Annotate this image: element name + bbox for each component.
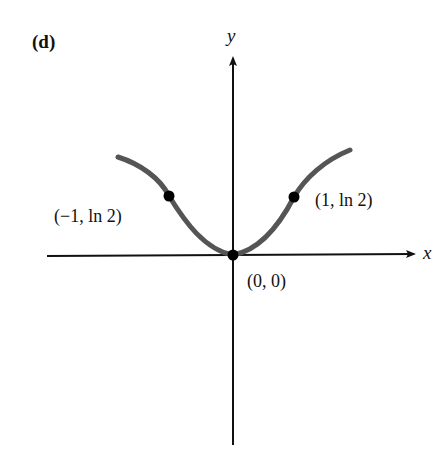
point-label-origin: (0, 0)	[247, 271, 286, 292]
panel-label: (d)	[32, 31, 55, 53]
x-axis-label: x	[422, 242, 432, 263]
point-origin	[228, 250, 239, 261]
point-1-ln2	[289, 192, 300, 203]
point-neg1-ln2	[164, 191, 175, 202]
point-label-neg1: (−1, ln 2)	[54, 206, 122, 227]
point-label-1: (1, ln 2)	[315, 190, 373, 211]
graph-canvas: (d) y x (−1, ln 2) (1, ln 2) (0, 0)	[0, 0, 448, 457]
y-axis-label: y	[225, 25, 236, 46]
